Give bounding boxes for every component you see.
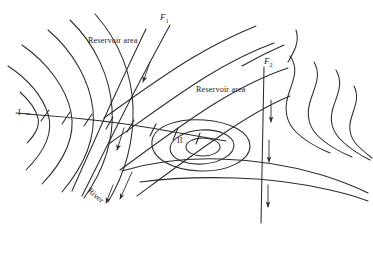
contour-left-5: [70, 20, 112, 198]
contour-right-4: [350, 86, 372, 158]
contour-dome-inner: [186, 138, 220, 156]
label-fault-F2-subscript: 2: [270, 61, 273, 68]
river-flow-arrow: [120, 172, 132, 199]
contour-lower-1: [140, 178, 368, 201]
contour-map-canvas: [0, 0, 373, 253]
contour-right-1: [286, 56, 330, 153]
label-structure-II: II: [177, 136, 182, 145]
label-structure-I: I: [18, 108, 21, 117]
fault-line-F2: [261, 67, 264, 223]
contour-left-1: [20, 92, 38, 143]
contour-group-lower: [122, 159, 368, 201]
fault-F2-down-arrows: [268, 100, 271, 207]
label-reservoir-area-2: Reservoir area: [196, 85, 246, 94]
contour-right-3: [331, 70, 370, 160]
contour-right-2: [308, 62, 352, 157]
label-fault-F1-subscript: 1: [166, 17, 169, 24]
label-reservoir-area-1: Reservoir area: [88, 36, 138, 45]
contour-ur-tail: [242, 45, 284, 66]
contour-group-right: [286, 30, 372, 160]
contour-ur-4: [137, 96, 290, 196]
label-fault-F2: F2: [264, 56, 273, 68]
contour-right-5: [288, 30, 297, 62]
slip-arrow-1: [143, 62, 150, 82]
structure-contour-figure: Reservoir area Reservoir area F1 F2 I II…: [0, 0, 373, 253]
contour-lower-2: [122, 159, 368, 193]
label-fault-F1: F1: [160, 12, 169, 24]
fault-F1-trace-b: [72, 29, 146, 191]
slip-arrow-2: [117, 128, 124, 150]
contour-dome-outer: [152, 120, 250, 171]
contour-group-dome-II: [152, 120, 250, 171]
